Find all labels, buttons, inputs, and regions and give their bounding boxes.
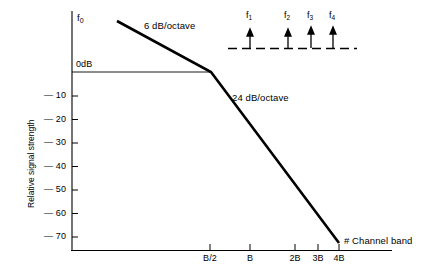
y-tick-label-minus50: — 50 [38, 185, 66, 194]
x-tick-label-b: B [235, 254, 265, 263]
carrier-label-f4: f4 [329, 11, 335, 20]
carrier-arrow-f4 [330, 27, 336, 48]
y-tick-label-minus20: — 20 [38, 115, 66, 124]
f0-subscript: 0 [80, 17, 84, 24]
chart-figure: Relative signal strength f0 0dB — 10 — 2… [0, 0, 426, 278]
response-curve [117, 21, 339, 243]
carrier-arrow-f1 [247, 29, 253, 48]
carrier-label-f1: f1 [246, 11, 252, 20]
carrier-label-f2: f2 [284, 11, 290, 20]
carrier-label-f3-subscript: 3 [310, 14, 314, 21]
carrier-label-f2-subscript: 2 [287, 14, 291, 21]
y-axis-title: Relative signal strength [26, 120, 36, 208]
y-tick-label-minus60: — 60 [38, 209, 66, 218]
carrier-arrows [247, 27, 336, 48]
slope-label-upper: 6 dB/octave [144, 21, 195, 31]
f0-label: f0 [77, 13, 84, 23]
zero-db-label: 0dB [76, 60, 92, 69]
carrier-arrow-f3 [308, 27, 314, 48]
x-tick-label-b-over-2: B/2 [195, 254, 225, 263]
carrier-arrow-f2 [285, 29, 291, 48]
carrier-label-f4-subscript: 4 [332, 14, 336, 21]
carrier-label-f3: f3 [307, 11, 313, 20]
y-axis-ticks [72, 96, 78, 237]
carrier-label-f1-subscript: 1 [249, 14, 253, 21]
x-tick-label-4b: 4B [324, 254, 354, 263]
y-tick-label-minus10: — 10 [38, 91, 66, 100]
y-tick-label-minus30: — 30 [38, 138, 66, 147]
x-axis-end-label: # Channel band [344, 236, 412, 246]
y-tick-label-minus70: — 70 [38, 232, 66, 241]
x-axis-ticks [210, 244, 339, 250]
slope-label-lower: 24 dB/octave [232, 93, 289, 103]
y-tick-label-minus40: — 40 [38, 162, 66, 171]
